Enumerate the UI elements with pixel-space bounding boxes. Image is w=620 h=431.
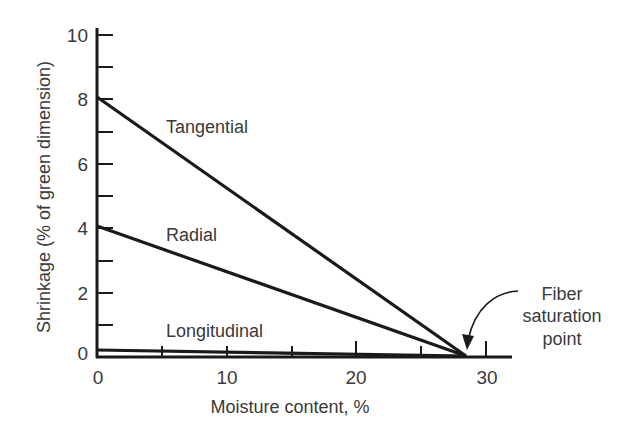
y-tick-label: 8 [77,89,88,110]
series-line-longitudinal [97,350,466,356]
y-tick-labels: 10 8 6 4 2 0 [67,25,89,364]
x-tick-label: 20 [345,367,366,388]
y-axis-title: Shrinkage (% of green dimension) [34,61,54,333]
y-tick-label: 2 [77,283,88,304]
series-line-tangential [97,97,466,356]
y-ticks [97,35,113,325]
series-line-radial [97,226,466,356]
y-tick-label: 0 [77,343,88,364]
x-axis-title: Moisture content, % [210,397,369,417]
series-label-tangential: Tangential [166,117,248,137]
x-tick-label: 30 [476,367,497,388]
annotation-arrow-icon [468,291,518,340]
fiber-saturation-annotation: Fiber saturation point [462,284,602,350]
annotation-line: saturation [522,306,601,326]
y-tick-label: 6 [77,154,88,175]
y-tick-label: 10 [67,25,88,46]
annotation-line: point [542,329,581,349]
series-label-radial: Radial [166,225,217,245]
series-label-longitudinal: Longitudinal [166,321,263,341]
x-tick-label: 0 [93,367,104,388]
y-tick-label: 4 [77,218,88,239]
x-tick-label: 10 [216,367,237,388]
annotation-line: Fiber [541,284,582,304]
shrinkage-chart: 10 8 6 4 2 0 0 10 20 30 Moisture content… [0,0,620,431]
arrowhead-icon [462,334,474,350]
x-tick-labels: 0 10 20 30 [93,367,498,388]
